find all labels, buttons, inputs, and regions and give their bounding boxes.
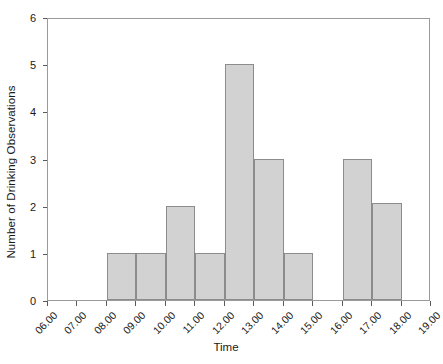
x-tick-mark <box>165 301 166 306</box>
bar-1100-1200 <box>195 253 224 300</box>
x-tick-label: 07.00 <box>62 309 89 336</box>
x-tick-mark <box>135 301 136 306</box>
y-tick-mark <box>43 160 47 161</box>
bar-1400-1500 <box>284 253 313 300</box>
x-tick-label: 16.00 <box>327 309 354 336</box>
x-tick-mark <box>342 301 343 306</box>
bar-1600-1700 <box>343 159 372 301</box>
x-tick-mark <box>47 301 48 306</box>
x-tick-label: 19.00 <box>415 309 442 336</box>
x-tick-label: 17.00 <box>356 309 383 336</box>
y-tick-label: 2 <box>0 201 36 213</box>
x-tick-mark <box>76 301 77 306</box>
bar-1200-1300 <box>225 64 254 300</box>
bars-layer <box>48 19 429 300</box>
x-tick-label: 12.00 <box>209 309 236 336</box>
y-tick-mark <box>43 254 47 255</box>
bar-0900-1000 <box>136 253 165 300</box>
bar-1700-1800 <box>372 203 401 300</box>
y-axis-label: Number of Drinking Observations <box>0 0 22 364</box>
y-tick-label: 5 <box>0 59 36 71</box>
x-tick-label: 09.00 <box>121 309 148 336</box>
x-tick-label: 13.00 <box>239 309 266 336</box>
x-tick-mark <box>312 301 313 306</box>
y-tick-mark <box>43 18 47 19</box>
y-tick-label: 3 <box>0 154 36 166</box>
x-axis-label: Time <box>47 341 405 353</box>
y-tick-mark <box>43 65 47 66</box>
y-tick-label: 4 <box>0 106 36 118</box>
x-tick-mark <box>401 301 402 306</box>
x-tick-mark <box>224 301 225 306</box>
bar-1300-1400 <box>254 159 283 301</box>
x-tick-label: 11.00 <box>180 309 207 336</box>
y-tick-label: 1 <box>0 248 36 260</box>
x-tick-label: 06.00 <box>32 309 59 336</box>
plot-area <box>47 18 430 301</box>
y-tick-label: 0 <box>0 295 36 307</box>
x-tick-mark <box>430 301 431 306</box>
y-tick-mark <box>43 207 47 208</box>
x-tick-mark <box>283 301 284 306</box>
x-tick-mark <box>194 301 195 306</box>
x-tick-mark <box>106 301 107 306</box>
x-tick-mark <box>253 301 254 306</box>
bar-0800-0900 <box>107 253 136 300</box>
x-tick-label: 10.00 <box>150 309 177 336</box>
y-tick-label: 6 <box>0 12 36 24</box>
x-tick-label: 15.00 <box>298 309 325 336</box>
x-tick-label: 08.00 <box>91 309 118 336</box>
x-tick-mark <box>371 301 372 306</box>
x-tick-label: 14.00 <box>268 309 295 336</box>
bar-1000-1100 <box>166 206 195 300</box>
y-tick-mark <box>43 112 47 113</box>
x-tick-label: 18.00 <box>386 309 413 336</box>
